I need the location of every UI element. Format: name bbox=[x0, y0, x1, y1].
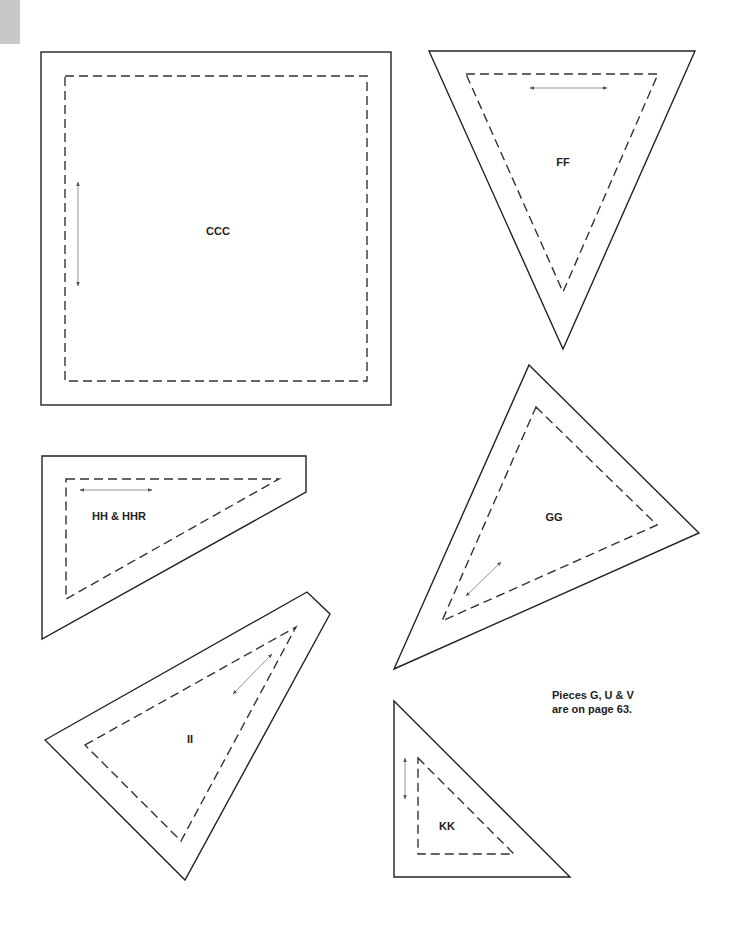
ii-grainline-arrow bbox=[233, 654, 272, 694]
piece-kk: KK bbox=[394, 701, 570, 877]
ff-cut-line bbox=[429, 51, 695, 349]
note-line-1: Pieces G, U & V bbox=[552, 688, 634, 702]
page-reference-note: Pieces G, U & V are on page 63. bbox=[552, 688, 634, 716]
piece-gg: GG bbox=[394, 365, 699, 669]
kk-cut-line bbox=[394, 701, 570, 877]
hh-sewing-line bbox=[66, 479, 279, 599]
piece-ff: FF bbox=[429, 51, 695, 349]
hh-cut-line bbox=[42, 456, 306, 639]
kk-label: KK bbox=[439, 820, 455, 832]
piece-ccc: CCC bbox=[41, 52, 391, 405]
gg-label: GG bbox=[545, 511, 562, 523]
ff-sewing-line bbox=[466, 74, 658, 292]
ccc-label: CCC bbox=[206, 225, 230, 237]
pattern-sheet: CCC FF HH & HHR GG II KK bbox=[0, 0, 735, 929]
piece-hh-hhr: HH & HHR bbox=[42, 456, 306, 639]
piece-ii: II bbox=[45, 592, 330, 880]
ii-label: II bbox=[187, 733, 193, 745]
note-line-2: are on page 63. bbox=[552, 702, 634, 716]
hh-label: HH & HHR bbox=[92, 510, 146, 522]
gg-grainline-arrow bbox=[466, 562, 501, 596]
ff-label: FF bbox=[556, 156, 570, 168]
